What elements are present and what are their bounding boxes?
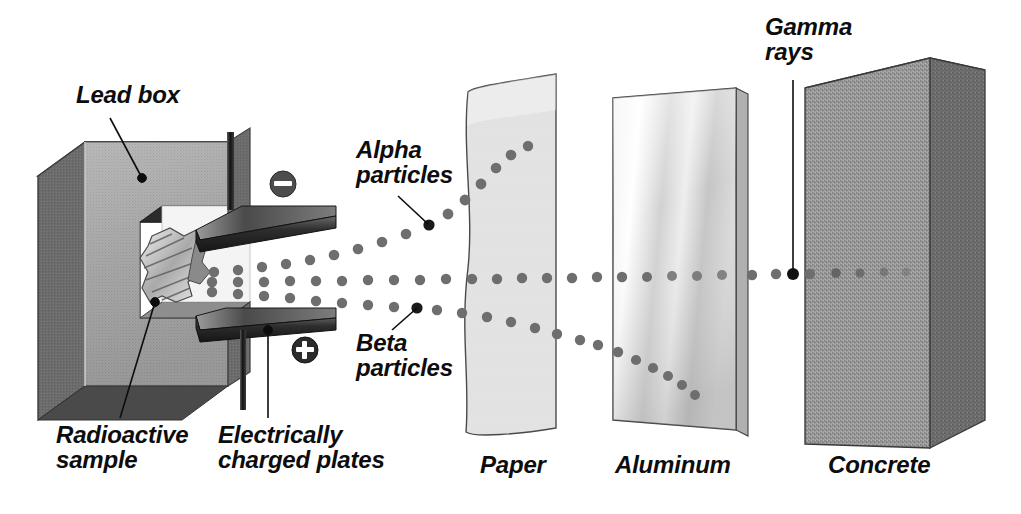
label-gamma-rays: Gamma rays	[765, 14, 852, 65]
positive-charge-icon	[292, 337, 318, 363]
label-concrete: Concrete	[828, 452, 930, 477]
label-beta-particles: Beta particles	[356, 330, 453, 381]
label-aluminum: Aluminum	[615, 452, 731, 477]
label-alpha-particles: Alpha particles	[356, 137, 453, 188]
label-lead-box: Lead box	[76, 82, 180, 107]
concrete-block	[805, 58, 985, 448]
label-radioactive-sample: Radioactive sample	[56, 422, 189, 473]
label-paper: Paper	[480, 452, 546, 477]
radiation-penetration-diagram: Lead box Alpha particles Beta particles …	[0, 0, 1021, 514]
negative-charge-icon	[270, 171, 296, 197]
label-charged-plates: Electrically charged plates	[218, 422, 385, 473]
paper-sheet	[465, 74, 556, 435]
